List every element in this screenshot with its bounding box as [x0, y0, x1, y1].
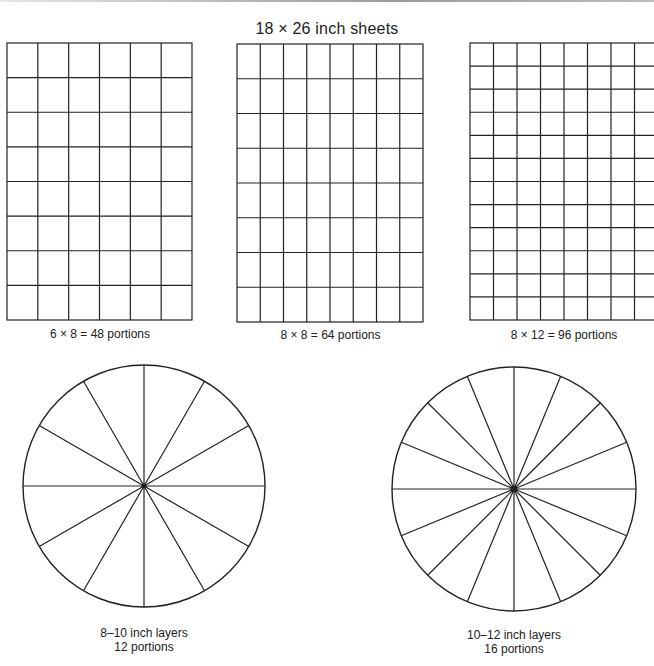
round-cake-16-slices	[392, 367, 636, 611]
sheet-label-8x8: 8 × 8 = 64 portions	[237, 328, 424, 342]
sheet-label-6x8: 6 × 8 = 48 portions	[7, 327, 193, 341]
cut-off-caption	[8, 662, 148, 666]
sheet-label-8x12: 8 × 12 = 96 portions	[470, 328, 654, 342]
sheet-grid-8x8	[237, 44, 423, 322]
sheet-grid-8x12	[470, 43, 654, 320]
sheet-grid-6x8	[7, 43, 192, 320]
round-size-label: 10–12 inch layers	[414, 628, 614, 642]
round-portions-label: 12 portions	[44, 640, 244, 654]
round-size-label: 8–10 inch layers	[44, 626, 244, 640]
round-portions-label: 16 portions	[414, 642, 614, 656]
round-cake-12-slices	[23, 365, 265, 607]
round-label-10-12: 10–12 inch layers 16 portions	[414, 628, 614, 656]
round-label-8-10: 8–10 inch layers 12 portions	[44, 626, 244, 654]
